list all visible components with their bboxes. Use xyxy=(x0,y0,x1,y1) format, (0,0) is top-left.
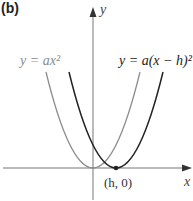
vertex-label: (h, 0) xyxy=(104,175,132,191)
vertex-point xyxy=(114,166,119,171)
shifted-parabola-curve xyxy=(69,72,163,168)
shifted-parabola-label: y = a(x − h)² xyxy=(119,53,192,69)
base-parabola-label: y = ax² xyxy=(20,53,60,69)
y-axis-label: y xyxy=(100,2,106,18)
x-axis-arrow-icon xyxy=(182,165,192,172)
parabola-diagram xyxy=(0,0,193,201)
x-axis-label: x xyxy=(184,174,190,190)
y-axis-arrow-icon xyxy=(90,7,97,17)
